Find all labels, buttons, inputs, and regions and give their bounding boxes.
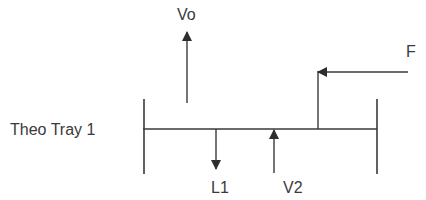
diagram-lines [0,0,426,200]
l1-label: L1 [211,180,229,196]
v2-label: V2 [283,180,303,196]
tray-diagram: Theo Tray 1 Vo F L1 V2 [0,0,426,200]
f-label: F [406,44,416,60]
tray-label: Theo Tray 1 [10,122,95,138]
vo-label: Vo [177,7,196,23]
